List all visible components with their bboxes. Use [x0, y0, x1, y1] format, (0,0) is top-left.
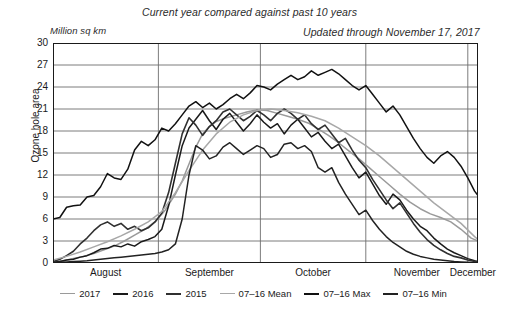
- legend-label: 2015: [185, 288, 206, 299]
- legend-label: 07–16 Mean: [239, 288, 292, 299]
- legend-item-07-16-min[interactable]: 07–16 Min: [383, 288, 446, 299]
- plot-area: [53, 43, 478, 263]
- y-axis-unit-label: Million sq km: [50, 25, 106, 36]
- gridlines: [53, 43, 478, 263]
- legend-swatch-icon: [220, 293, 235, 294]
- y-tick-0: 0: [20, 258, 48, 268]
- legend-swatch-icon: [383, 293, 398, 295]
- legend-label: 2016: [132, 288, 153, 299]
- legend-label: 07–16 Max: [323, 288, 370, 299]
- legend-item-07-16-max[interactable]: 07–16 Max: [304, 288, 370, 299]
- y-tick-12: 12: [20, 170, 48, 180]
- legend-label: 2017: [79, 288, 100, 299]
- legend-swatch-icon: [304, 293, 319, 295]
- y-tick-3: 3: [20, 236, 48, 246]
- ozone-hole-area-chart: Current year compared against past 10 ye…: [0, 0, 507, 318]
- y-tick-6: 6: [20, 214, 48, 224]
- legend-item-2016[interactable]: 2016: [113, 288, 153, 299]
- data-series-group: [53, 69, 478, 262]
- legend-item-2015[interactable]: 2015: [166, 288, 206, 299]
- legend-label: 07–16 Min: [402, 288, 446, 299]
- x-tick-august: August: [56, 267, 156, 278]
- legend-item-07-16-mean[interactable]: 07–16 Mean: [220, 288, 292, 299]
- series-line-07-16-mean: [53, 109, 478, 260]
- y-tick-27: 27: [20, 60, 48, 70]
- legend-swatch-icon: [60, 293, 75, 294]
- y-tick-9: 9: [20, 192, 48, 202]
- y-tick-30: 30: [20, 38, 48, 48]
- chart-title: Current year compared against past 10 ye…: [142, 6, 357, 18]
- plot-svg: [53, 43, 478, 263]
- legend-swatch-icon: [166, 293, 181, 295]
- x-tick-october: October: [263, 267, 363, 278]
- y-tick-21: 21: [20, 104, 48, 114]
- y-tick-24: 24: [20, 82, 48, 92]
- y-tick-18: 18: [20, 126, 48, 136]
- legend-item-2017[interactable]: 2017: [60, 288, 100, 299]
- legend-swatch-icon: [113, 293, 128, 295]
- y-tick-15: 15: [20, 148, 48, 158]
- x-tick-december: December: [423, 267, 507, 278]
- chart-updated-note: Updated through November 17, 2017: [303, 26, 480, 38]
- chart-legend: 20172016201507–16 Mean07–16 Max07–16 Min: [0, 288, 507, 299]
- x-tick-september: September: [159, 267, 259, 278]
